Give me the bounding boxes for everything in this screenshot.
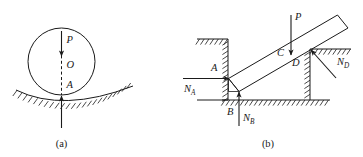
point-label-A-b: A <box>210 62 218 73</box>
mechanics-figure: P O A (a) <box>0 0 363 157</box>
force-label-P-b: P <box>294 11 302 22</box>
force-label-NB-subscript-b: B <box>250 118 255 126</box>
panel-caption-a: (a) <box>56 138 68 150</box>
panel-caption-b: (b) <box>262 138 275 150</box>
point-label-C-b: C <box>277 47 285 58</box>
panel-a: P O A (a) <box>13 28 133 150</box>
left-wall-top-hatching-b <box>196 39 228 45</box>
panel-b: N A A B N B D N D P C (b) <box>183 11 351 150</box>
point-label-A-a: A <box>66 79 74 90</box>
point-label-D-b: D <box>291 57 300 68</box>
corner-wedge-b <box>229 79 240 92</box>
force-label-NA-subscript-b: A <box>190 89 196 97</box>
force-label-ND-subscript-b: D <box>343 62 350 70</box>
figure-container: P O A (a) <box>0 0 363 157</box>
point-label-O-a: O <box>67 59 75 70</box>
force-label-P-a: P <box>66 34 74 45</box>
inclined-bar-b <box>229 15 349 92</box>
right-ledge-hatching-b <box>309 49 350 55</box>
left-wall-side-hatching-b <box>222 42 228 102</box>
point-label-B-b: B <box>227 106 234 117</box>
floor-b <box>221 100 330 106</box>
right-step-side-hatching-b <box>304 52 310 98</box>
floor-hatching-b <box>221 100 328 106</box>
